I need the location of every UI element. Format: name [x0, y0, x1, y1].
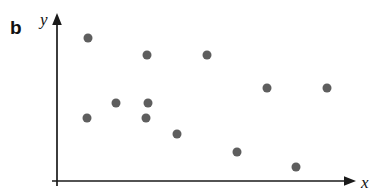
- data-point: [292, 163, 301, 172]
- scatter-plot-canvas: y x: [0, 0, 379, 192]
- data-point: [233, 148, 242, 157]
- data-point: [84, 34, 93, 43]
- x-axis-arrowhead: [344, 176, 356, 185]
- x-axis-label: x: [360, 173, 369, 192]
- data-point: [144, 99, 153, 108]
- data-point: [83, 114, 92, 123]
- data-point: [263, 84, 272, 93]
- data-point: [143, 51, 152, 60]
- y-axis-label: y: [38, 10, 48, 29]
- data-point: [173, 130, 182, 139]
- y-axis-arrowhead: [52, 13, 62, 25]
- data-point: [112, 99, 121, 108]
- data-point-group: [83, 34, 332, 172]
- axes-group: [52, 13, 356, 186]
- data-point: [323, 84, 332, 93]
- data-point: [142, 114, 151, 123]
- data-point: [203, 51, 212, 60]
- scatter-plot-figure: b y x: [0, 0, 379, 192]
